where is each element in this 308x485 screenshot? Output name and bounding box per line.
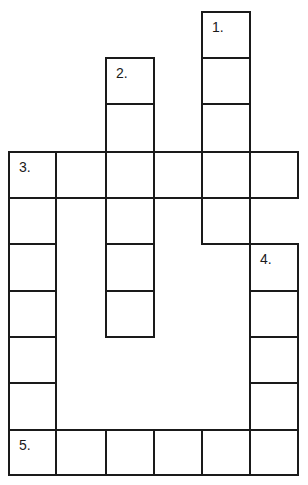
letter-input[interactable] <box>203 13 249 57</box>
crossword-cell[interactable]: 3. <box>8 151 57 199</box>
crossword-cell[interactable] <box>55 151 107 199</box>
letter-input[interactable] <box>10 245 55 290</box>
letter-input[interactable] <box>107 292 153 336</box>
letter-input[interactable] <box>251 245 297 290</box>
crossword-cell[interactable] <box>105 429 155 476</box>
letter-input[interactable] <box>10 431 55 474</box>
letter-input[interactable] <box>203 153 249 197</box>
letter-input[interactable] <box>203 105 249 151</box>
letter-input[interactable] <box>251 431 297 474</box>
crossword-cell[interactable] <box>201 197 251 245</box>
crossword-cell[interactable] <box>201 429 251 476</box>
letter-input[interactable] <box>10 153 55 197</box>
crossword-cell[interactable] <box>55 429 107 476</box>
letter-input[interactable] <box>107 105 153 151</box>
crossword-cell[interactable] <box>153 151 203 199</box>
crossword-cell[interactable] <box>8 243 57 292</box>
letter-input[interactable] <box>251 338 297 382</box>
crossword-cell[interactable] <box>8 336 57 384</box>
letter-input[interactable] <box>107 245 153 290</box>
crossword-cell[interactable] <box>249 151 299 199</box>
crossword-cell[interactable] <box>105 197 155 245</box>
letter-input[interactable] <box>251 153 297 197</box>
letter-input[interactable] <box>155 153 201 197</box>
crossword-cell[interactable] <box>8 382 57 431</box>
letter-input[interactable] <box>107 199 153 243</box>
letter-input[interactable] <box>57 153 105 197</box>
letter-input[interactable] <box>155 431 201 474</box>
letter-input[interactable] <box>203 199 249 243</box>
letter-input[interactable] <box>57 431 105 474</box>
crossword-cell[interactable] <box>8 290 57 338</box>
letter-input[interactable] <box>107 431 153 474</box>
crossword-cell[interactable] <box>105 290 155 338</box>
crossword-cell[interactable] <box>153 429 203 476</box>
letter-input[interactable] <box>251 384 297 429</box>
crossword-cell[interactable] <box>201 103 251 153</box>
crossword-cell[interactable] <box>8 197 57 245</box>
letter-input[interactable] <box>10 338 55 382</box>
crossword-cell[interactable]: 5. <box>8 429 57 476</box>
letter-input[interactable] <box>10 384 55 429</box>
crossword-cell[interactable]: 4. <box>249 243 299 292</box>
letter-input[interactable] <box>203 59 249 103</box>
letter-input[interactable] <box>107 153 153 197</box>
crossword-cell[interactable] <box>105 243 155 292</box>
crossword-cell[interactable] <box>249 290 299 338</box>
crossword-cell[interactable] <box>201 151 251 199</box>
crossword-cell[interactable]: 2. <box>105 57 155 105</box>
crossword-cell[interactable] <box>249 382 299 431</box>
crossword-cell[interactable] <box>249 336 299 384</box>
letter-input[interactable] <box>107 59 153 103</box>
crossword-cell[interactable] <box>201 57 251 105</box>
letter-input[interactable] <box>10 199 55 243</box>
crossword-cell[interactable] <box>249 429 299 476</box>
letter-input[interactable] <box>203 431 249 474</box>
letter-input[interactable] <box>251 292 297 336</box>
crossword-cell[interactable] <box>105 151 155 199</box>
crossword-cell[interactable]: 1. <box>201 11 251 59</box>
letter-input[interactable] <box>10 292 55 336</box>
crossword-cell[interactable] <box>105 103 155 153</box>
